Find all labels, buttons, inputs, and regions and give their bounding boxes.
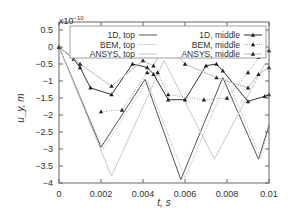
y-tick-label: −1 <box>43 76 53 86</box>
legend-label: ANSYS, middle <box>181 49 240 59</box>
x-tick-label: 0 <box>56 189 61 199</box>
y-tick-label: −1.5 <box>35 93 53 103</box>
series-line <box>59 47 269 180</box>
x-tick-label: 0.006 <box>174 189 197 199</box>
data-point-marker <box>88 86 92 90</box>
y-tick-label: 0 <box>48 42 53 52</box>
y-multiplier-base: x10 <box>59 16 74 26</box>
x-axis-label: t, s <box>157 197 170 208</box>
legend-label: ANSYS, top <box>90 49 136 59</box>
y-tick-label: −4 <box>43 178 53 188</box>
y-tick-label: 0.5 <box>40 25 53 35</box>
series-line <box>59 47 269 178</box>
data-point-marker <box>99 109 103 113</box>
legend-label: BEM, top <box>100 40 135 50</box>
legend-label: 1D, top <box>108 30 136 40</box>
data-point-marker <box>130 62 134 66</box>
x-tick-label: 0.008 <box>216 189 239 199</box>
series-1d-top <box>59 47 269 180</box>
y-tick-label: −3.5 <box>35 161 53 171</box>
y-multiplier-label: x10−10 <box>59 15 84 26</box>
chart: 00.0020.0040.0060.0080.010.50−0.5−1−1.5−… <box>0 0 293 221</box>
y-axis-label: u_y, m <box>15 93 26 122</box>
curves-group <box>57 45 271 180</box>
y-tick-label: −3 <box>43 144 53 154</box>
data-point-marker <box>141 58 145 62</box>
y-tick-label: −2.5 <box>35 127 53 137</box>
y-tick-label: −0.5 <box>35 59 53 69</box>
legend-label: 1D, middle <box>199 30 240 40</box>
x-tick-label: 0.002 <box>90 189 113 199</box>
series-bem-top <box>59 47 269 178</box>
legend: 1D, topBEM, topANSYS, top1D, middleBEM, … <box>70 26 266 59</box>
y-multiplier-exponent: −10 <box>74 15 85 21</box>
y-tick-label: −2 <box>43 110 53 120</box>
legend-label: BEM, middle <box>192 40 240 50</box>
x-tick-label: 0.01 <box>260 189 278 199</box>
x-tick-label: 0.004 <box>132 189 155 199</box>
